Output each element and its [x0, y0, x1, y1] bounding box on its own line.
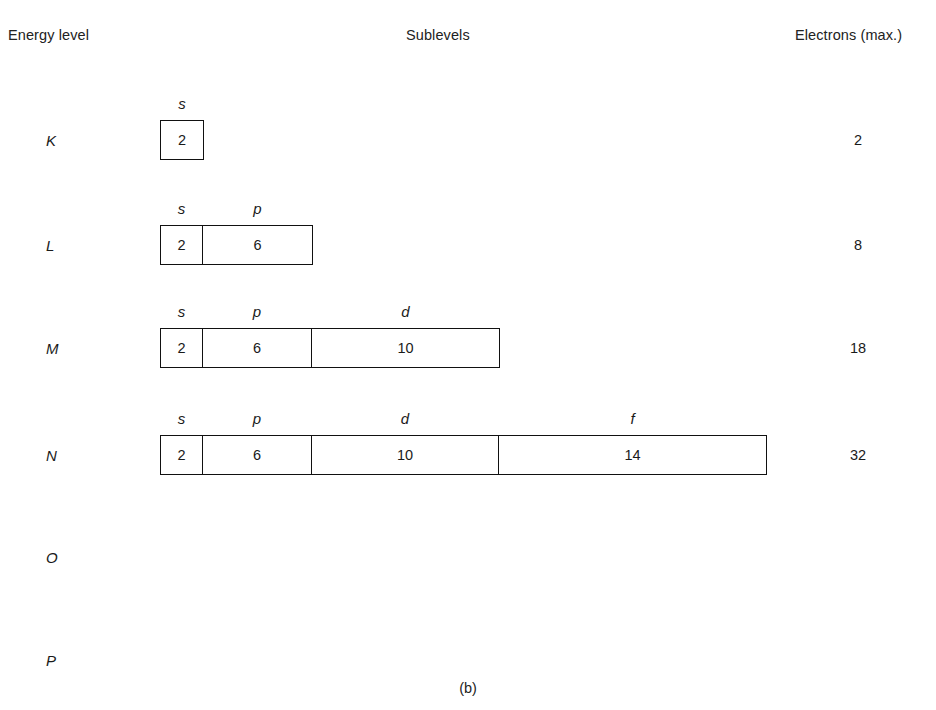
energy-level-label-n: N — [46, 447, 57, 464]
sublevel-letter-p: p — [203, 304, 311, 319]
sublevel-cell-p: p6 — [203, 329, 312, 367]
sublevel-letter-s: s — [161, 201, 202, 216]
sublevel-letter-d: d — [312, 304, 499, 319]
electron-count-m: 18 — [838, 340, 878, 356]
sublevel-bar-l: s2p6 — [160, 225, 313, 265]
sublevel-cell-p: p6 — [203, 436, 312, 474]
sublevel-cell-s: s2 — [161, 226, 203, 264]
sublevel-letter-p: p — [203, 411, 311, 426]
electron-count-l: 8 — [838, 237, 878, 253]
sublevel-cell-f: f14 — [499, 436, 766, 474]
sublevel-capacity-value: 6 — [253, 341, 261, 356]
sublevel-capacity-value: 10 — [397, 448, 413, 463]
sublevel-capacity-value: 10 — [397, 341, 413, 356]
sublevel-letter-s: s — [161, 96, 203, 111]
column-header-electrons-max: Electrons (max.) — [795, 27, 902, 43]
energy-level-label-o: O — [46, 549, 58, 566]
sublevel-cell-s: s2 — [161, 436, 203, 474]
energy-level-label-k: K — [46, 132, 56, 149]
sublevel-capacity-value: 14 — [624, 448, 640, 463]
energy-level-label-m: M — [46, 340, 59, 357]
sublevel-capacity-value: 2 — [177, 448, 185, 463]
electron-count-k: 2 — [838, 132, 878, 148]
energy-level-label-p: P — [46, 652, 56, 669]
sublevel-letter-p: p — [203, 201, 312, 216]
column-header-energy-level: Energy level — [8, 27, 89, 43]
sublevel-capacity-value: 6 — [253, 448, 261, 463]
sublevel-cell-p: p6 — [203, 226, 312, 264]
sublevel-cell-d: d10 — [312, 329, 499, 367]
sublevel-letter-f: f — [499, 411, 766, 426]
sublevel-bar-m: s2p6d10 — [160, 328, 500, 368]
sublevel-capacity-value: 6 — [253, 238, 261, 253]
sublevel-capacity-value: 2 — [177, 238, 185, 253]
sublevel-capacity-value: 2 — [178, 133, 186, 148]
sublevel-cell-s: s2 — [161, 329, 203, 367]
sublevel-bar-k: s2 — [160, 120, 204, 160]
sublevel-bar-n: s2p6d10f14 — [160, 435, 767, 475]
sublevel-cell-d: d10 — [312, 436, 499, 474]
figure-caption: (b) — [0, 680, 936, 696]
sublevel-capacity-value: 2 — [177, 341, 185, 356]
energy-level-label-l: L — [46, 237, 54, 254]
energy-level-sublevel-diagram: Energy level Sublevels Electrons (max.) … — [0, 0, 936, 710]
sublevel-letter-d: d — [312, 411, 498, 426]
electron-count-n: 32 — [838, 447, 878, 463]
column-header-sublevels: Sublevels — [406, 27, 470, 43]
sublevel-letter-s: s — [161, 411, 202, 426]
sublevel-cell-s: s2 — [161, 121, 203, 159]
sublevel-letter-s: s — [161, 304, 202, 319]
